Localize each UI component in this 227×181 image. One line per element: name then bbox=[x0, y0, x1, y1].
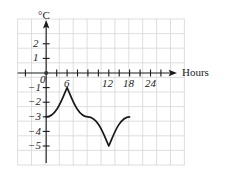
y-tick-label-minus-5: −5 bbox=[28, 140, 41, 151]
chart-gridlines bbox=[18, 19, 185, 165]
y-axis bbox=[43, 20, 49, 163]
x-tick-label-24: 24 bbox=[145, 78, 156, 89]
y-tick-label-2: 2 bbox=[33, 38, 39, 49]
y-axis-title: °C bbox=[38, 10, 50, 21]
y-tick-label-minus-2: −2 bbox=[28, 96, 41, 107]
y-tick-label-minus-3: −3 bbox=[28, 111, 41, 122]
x-tick-label-18: 18 bbox=[123, 78, 134, 89]
y-tick-label-1: 1 bbox=[33, 52, 39, 63]
temperature-curve bbox=[46, 88, 129, 146]
x-tick-label-12: 12 bbox=[102, 78, 113, 89]
y-tick-label-minus-4: −4 bbox=[28, 126, 41, 137]
x-tick-label-6: 6 bbox=[64, 78, 70, 89]
x-axis-title: Hours bbox=[182, 67, 209, 78]
y-tick-label-minus-1: −1 bbox=[28, 82, 41, 93]
chart-figure: °C Hours 0 6 12 18 24 2 1 −1 −2 −3 −4 −5 bbox=[0, 0, 227, 181]
